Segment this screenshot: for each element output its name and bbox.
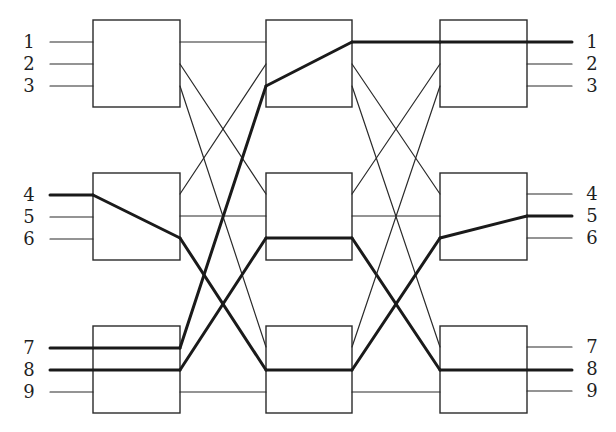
switch-m2: [266, 173, 352, 260]
output-port-label: 6: [586, 227, 597, 248]
output-port-label: 1: [586, 31, 597, 52]
clos-network-diagram: 123456789123456789: [0, 0, 616, 432]
output-port-label: 7: [586, 336, 597, 357]
input-port-label: 1: [23, 31, 34, 52]
input-port-label: 2: [23, 53, 34, 74]
output-port-label: 3: [586, 75, 597, 96]
output-port-label: 9: [586, 380, 597, 401]
switch-r2: [440, 173, 527, 260]
input-port-label: 6: [23, 228, 34, 249]
input-port-label: 3: [23, 75, 34, 96]
switch-r1: [440, 20, 527, 107]
input-port-label: 5: [23, 206, 34, 227]
input-port-label: 7: [23, 337, 34, 358]
output-port-label: 8: [586, 358, 597, 379]
input-port-label: 4: [23, 184, 34, 205]
output-port-label: 2: [586, 53, 597, 74]
output-port-label: 5: [586, 205, 597, 226]
switch-boxes: [93, 20, 527, 413]
output-port-label: 4: [586, 183, 597, 204]
input-port-label: 8: [23, 359, 34, 380]
input-port-label: 9: [23, 381, 34, 402]
switch-l1: [93, 20, 180, 107]
